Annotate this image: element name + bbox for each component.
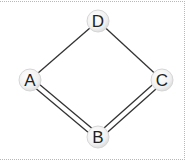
graph-canvas: D A C B: [0, 0, 195, 164]
node-a-label: A: [24, 71, 36, 90]
edge-a-b-line-2: [28, 82, 96, 139]
node-b[interactable]: B: [87, 126, 109, 148]
node-d[interactable]: D: [87, 10, 109, 32]
node-a[interactable]: A: [19, 69, 41, 91]
edge-d-a: [30, 21, 98, 80]
node-c-label: C: [156, 71, 168, 90]
edge-a-b-line-1: [32, 78, 100, 135]
edge-b-c-line-2: [100, 82, 164, 139]
edges: [28, 21, 163, 139]
node-b-label: B: [92, 128, 103, 147]
node-d-label: D: [92, 12, 104, 31]
edge-d-c: [98, 21, 162, 80]
edge-b-c-line-1: [96, 78, 160, 135]
node-c[interactable]: C: [151, 69, 173, 91]
